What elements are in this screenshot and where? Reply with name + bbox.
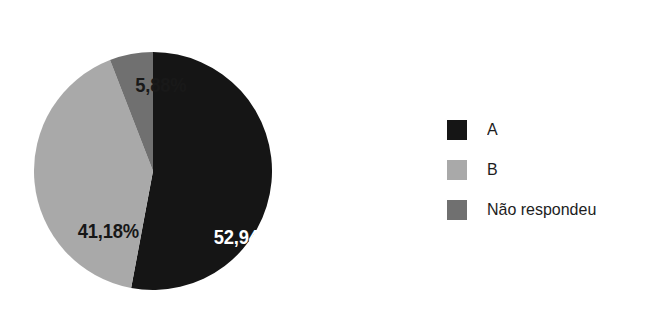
legend-swatch-icon-nao-respondeu xyxy=(447,200,467,220)
slice-value-label-b: 41,18% xyxy=(78,220,139,243)
legend-label-b: B xyxy=(487,160,498,180)
legend-item-b: B xyxy=(447,160,637,180)
legend-item-a: A xyxy=(447,120,637,140)
legend-label-nao-respondeu: Não respondeu xyxy=(487,200,596,220)
legend-swatch-icon-a xyxy=(447,120,467,140)
slice-value-label-nao-respondeu: 5,88% xyxy=(135,74,186,97)
pie-chart-figure: 52,94% 41,18% 5,88% A B Não respondeu xyxy=(0,0,649,314)
legend-label-a: A xyxy=(487,120,498,140)
legend-item-nao-respondeu: Não respondeu xyxy=(447,200,637,220)
slice-value-label-a: 52,94% xyxy=(214,226,275,249)
legend: A B Não respondeu xyxy=(447,120,637,220)
pie-chart: 52,94% 41,18% 5,88% xyxy=(34,52,272,290)
legend-swatch-icon-b xyxy=(447,160,467,180)
